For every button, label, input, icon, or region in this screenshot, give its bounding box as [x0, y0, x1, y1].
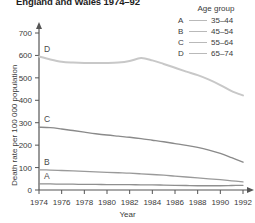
svg-text:1978: 1978 [75, 198, 93, 207]
svg-text:1980: 1980 [98, 198, 116, 207]
svg-text:100: 100 [19, 164, 33, 173]
svg-text:1974: 1974 [30, 198, 48, 207]
svg-text:1990: 1990 [211, 198, 229, 207]
svg-text:A: A [44, 171, 50, 181]
svg-text:1986: 1986 [166, 198, 184, 207]
axis-lines [36, 22, 254, 193]
svg-text:B: B [44, 157, 50, 167]
svg-text:500: 500 [19, 74, 33, 83]
x-axis-ticks: 1974197619781980198219841986198819901992 [30, 190, 252, 207]
svg-text:200: 200 [19, 141, 33, 150]
chart-container: England and Wales 1974–92 Age group A 35… [0, 0, 255, 223]
svg-text:700: 700 [19, 29, 33, 38]
svg-text:1984: 1984 [143, 198, 161, 207]
svg-text:1976: 1976 [53, 198, 71, 207]
svg-text:300: 300 [19, 119, 33, 128]
y-axis-ticks: 0100200300400500600700 [19, 29, 39, 195]
svg-text:C: C [44, 114, 50, 124]
series-lines [39, 57, 243, 186]
plot-area: 0100200300400500600700 19741976197819801… [0, 0, 255, 223]
svg-text:D: D [44, 44, 50, 54]
svg-text:0: 0 [28, 186, 33, 195]
svg-text:400: 400 [19, 96, 33, 105]
svg-text:1988: 1988 [189, 198, 207, 207]
svg-text:600: 600 [19, 51, 33, 60]
series-letter-labels: ABCD [44, 44, 50, 181]
svg-text:1992: 1992 [234, 198, 252, 207]
svg-text:1982: 1982 [121, 198, 139, 207]
